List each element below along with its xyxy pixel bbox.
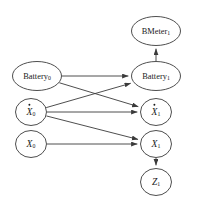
graph-node-bmeter1[interactable]: BMeter1 — [132, 17, 181, 46]
node-label: Battery1 — [142, 71, 170, 81]
graph-node-x1[interactable]: X1 — [141, 131, 172, 158]
edge-arrow — [46, 116, 138, 139]
derivative-dot-icon — [153, 104, 155, 106]
graph-node-battery0[interactable]: Battery0 — [13, 62, 62, 91]
node-label-main: Battery — [142, 71, 167, 80]
graph-node-x0[interactable]: X0 — [16, 131, 47, 158]
node-label-subscript: 1 — [157, 111, 160, 117]
graph-node-xdot0[interactable]: X0 — [16, 99, 47, 126]
node-label-main: BMeter — [142, 26, 168, 35]
derivative-dot-icon — [28, 104, 30, 106]
node-label-subscript: 0 — [32, 111, 35, 117]
bayesian-network-diagram: BMeter1Battery0Battery1X0X1X0X1Z1 — [0, 0, 197, 207]
edge-arrow — [46, 83, 131, 107]
node-label-subscript: 1 — [167, 75, 170, 81]
node-label-main: Battery — [23, 71, 48, 80]
graph-node-xdot1[interactable]: X1 — [141, 99, 172, 126]
edge-arrow — [59, 83, 138, 107]
node-label: Battery0 — [23, 71, 51, 81]
graph-canvas: BMeter1Battery0Battery1X0X1X0X1Z1 — [0, 0, 197, 207]
node-label-subscript: 0 — [32, 143, 35, 149]
node-label-subscript: 0 — [48, 75, 51, 81]
node-label-subscript: 1 — [157, 181, 160, 187]
node-label-subscript: 1 — [167, 30, 170, 36]
graph-node-z1[interactable]: Z1 — [141, 169, 172, 196]
nodes-layer: BMeter1Battery0Battery1X0X1X0X1Z1 — [13, 17, 181, 196]
node-label-subscript: 1 — [157, 143, 160, 149]
node-label: BMeter1 — [142, 26, 171, 36]
graph-node-battery1[interactable]: Battery1 — [132, 62, 181, 91]
